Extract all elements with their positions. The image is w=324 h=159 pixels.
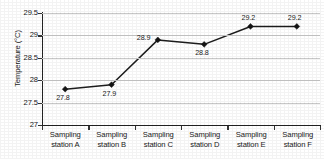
x-category-label-line1: Sampling xyxy=(135,130,182,140)
x-category-label-line1: Sampling xyxy=(275,130,322,140)
data-point-marker xyxy=(201,41,207,47)
x-tick-mark xyxy=(135,126,136,130)
x-category-label-line2: station A xyxy=(42,140,89,150)
y-tick-label: 29.5 xyxy=(14,9,38,17)
x-tick-mark xyxy=(88,126,89,130)
y-tick-mark xyxy=(38,80,42,81)
x-category-label-line2: station F xyxy=(275,140,322,150)
y-tick-label: 27.5 xyxy=(14,99,38,107)
y-tick-label: 27 xyxy=(14,121,38,129)
y-tick-label: 28.5 xyxy=(14,54,38,62)
y-tick-label: 29 xyxy=(14,31,38,39)
x-tick-mark xyxy=(181,126,182,130)
y-tick-mark xyxy=(38,58,42,59)
x-tick-mark xyxy=(274,126,275,130)
x-category-label-line2: station B xyxy=(89,140,136,150)
x-tick-mark xyxy=(42,126,43,130)
data-point-label: 28.9 xyxy=(137,34,151,42)
x-tick-mark xyxy=(320,126,321,130)
y-axis-tick-labels: 29.52928.52827.527 xyxy=(12,0,38,159)
y-tick-mark xyxy=(38,35,42,36)
gridline xyxy=(42,13,320,14)
x-category-label: Samplingstation E xyxy=(228,128,275,158)
gridline xyxy=(42,35,320,36)
x-category-label-line1: Sampling xyxy=(89,130,136,140)
plot-area xyxy=(42,13,320,125)
x-category-label-line2: station D xyxy=(182,140,229,150)
x-category-label: Samplingstation D xyxy=(182,128,229,158)
x-category-label-line2: station E xyxy=(228,140,275,150)
x-category-label-line1: Sampling xyxy=(42,130,89,140)
data-point-label: 29.2 xyxy=(288,14,302,22)
x-category-label-line1: Sampling xyxy=(182,130,229,140)
x-category-label-line1: Sampling xyxy=(228,130,275,140)
y-tick-mark xyxy=(38,103,42,104)
data-point-label: 28.8 xyxy=(195,49,209,57)
data-point-marker xyxy=(294,24,300,30)
data-point-marker xyxy=(248,24,254,30)
gridline xyxy=(42,80,320,81)
y-tick-mark xyxy=(38,13,42,14)
x-category-label: Samplingstation B xyxy=(89,128,136,158)
x-axis-category-labels: Samplingstation ASamplingstation BSampli… xyxy=(42,128,321,158)
temperature-series xyxy=(42,13,320,125)
data-point-label: 29.2 xyxy=(242,14,256,22)
y-tick-label: 28 xyxy=(14,76,38,84)
x-tick-mark xyxy=(227,126,228,130)
temperature-line-chart: Temperature (°C) 29.52928.52827.527 Samp… xyxy=(0,0,324,159)
x-category-label: Samplingstation C xyxy=(135,128,182,158)
data-point-marker xyxy=(62,86,68,92)
gridline xyxy=(42,58,320,59)
x-category-label-line2: station C xyxy=(135,140,182,150)
data-point-label: 27.9 xyxy=(103,90,117,98)
x-category-label: Samplingstation F xyxy=(275,128,322,158)
gridline xyxy=(42,103,320,104)
data-point-label: 27.8 xyxy=(56,94,70,102)
x-category-label: Samplingstation A xyxy=(42,128,89,158)
